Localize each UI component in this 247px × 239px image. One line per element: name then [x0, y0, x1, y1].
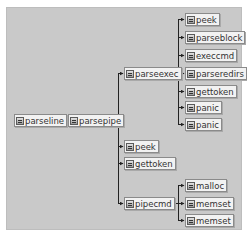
function-icon [70, 117, 78, 125]
node-pipecmd[interactable]: pipecmd [124, 197, 175, 210]
node-label: parsepipe [79, 116, 121, 126]
function-icon [16, 117, 24, 125]
function-icon [126, 160, 134, 168]
node-parseline[interactable]: parseline [14, 114, 67, 127]
node-label: gettoken [135, 159, 173, 169]
node-label: parseexec [135, 69, 179, 79]
node-label: memset [196, 199, 231, 209]
function-icon [187, 52, 195, 60]
node-label: parseline [25, 116, 64, 126]
function-icon [187, 121, 195, 129]
node-label: peek [135, 142, 156, 152]
node-panic[interactable]: panic [185, 101, 222, 114]
node-execcmd[interactable]: execcmd [185, 49, 237, 62]
node-gettoken[interactable]: gettoken [124, 157, 176, 170]
node-label: panic [196, 103, 219, 113]
node-parseexec[interactable]: parseexec [124, 67, 182, 80]
function-icon [187, 16, 195, 24]
node-label: malloc [196, 181, 224, 191]
node-malloc[interactable]: malloc [185, 179, 227, 192]
node-gettoken[interactable]: gettoken [185, 85, 237, 98]
node-label: memset [196, 216, 231, 226]
node-label: parseblock [196, 33, 242, 43]
function-icon [187, 200, 195, 208]
function-icon [187, 182, 195, 190]
node-label: parseredirs [196, 69, 244, 79]
function-icon [126, 70, 134, 78]
function-icon [187, 70, 195, 78]
function-icon [187, 88, 195, 96]
function-icon [187, 104, 195, 112]
node-panic[interactable]: panic [185, 118, 222, 131]
node-label: pipecmd [135, 199, 172, 209]
function-icon [187, 217, 195, 225]
node-label: panic [196, 120, 219, 130]
node-memset[interactable]: memset [185, 214, 234, 227]
function-icon [187, 34, 195, 42]
node-peek[interactable]: peek [185, 13, 220, 26]
node-parseredirs[interactable]: parseredirs [185, 67, 247, 80]
node-label: peek [196, 15, 217, 25]
node-label: execcmd [196, 51, 234, 61]
node-memset[interactable]: memset [185, 197, 234, 210]
node-parsepipe[interactable]: parsepipe [68, 114, 124, 127]
node-peek[interactable]: peek [124, 140, 159, 153]
node-parseblock[interactable]: parseblock [185, 31, 245, 44]
node-label: gettoken [196, 87, 234, 97]
function-icon [126, 200, 134, 208]
function-icon [126, 143, 134, 151]
